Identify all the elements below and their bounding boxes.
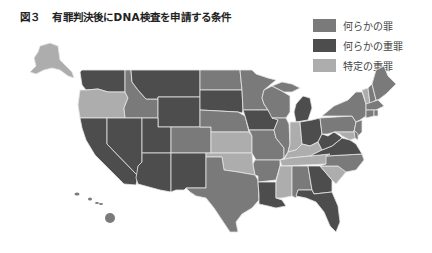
state-CT — [366, 110, 374, 118]
state-KS — [211, 132, 252, 153]
state-PA — [320, 116, 356, 134]
state-CO — [171, 127, 211, 153]
state-SD — [200, 90, 243, 113]
state-MI — [294, 96, 312, 122]
state-FL — [296, 190, 340, 232]
state-ND — [200, 70, 242, 90]
state-ME — [372, 66, 396, 100]
state-MS — [276, 166, 292, 198]
state-AK — [30, 43, 74, 78]
state-HI — [75, 193, 116, 224]
state-OR — [78, 89, 128, 118]
state-NM — [171, 153, 206, 192]
state-WY — [158, 97, 200, 127]
state-WA — [80, 70, 125, 92]
us-map — [0, 0, 432, 253]
state-RI — [374, 110, 378, 116]
